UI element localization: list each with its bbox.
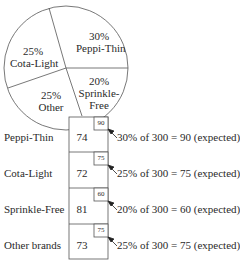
slice-name: Sprinkle-: [76, 87, 122, 99]
observed-value: 74: [69, 131, 95, 143]
observed-value: 73: [69, 239, 95, 251]
slice-percent: 30%: [76, 30, 122, 42]
pie-divider-left: [8, 68, 66, 88]
observed-value: 81: [69, 203, 95, 215]
row-label-other-brands: Other brands: [4, 239, 61, 251]
slice-name: Peppi-Thin: [76, 42, 122, 54]
slice-name-line2: Free: [76, 99, 122, 111]
expected-annotation: 25% of 300 = 75 (expected): [117, 239, 240, 251]
expected-annotation: 30% of 300 = 90 (expected): [117, 131, 240, 143]
expected-annotation: 25% of 300 = 75 (expected): [117, 167, 240, 179]
row-label-sprinkle-free: Sprinkle-Free: [4, 203, 64, 215]
pie-label-peppi-thin: 30% Peppi-Thin: [76, 30, 122, 54]
expected-value: 60: [94, 190, 108, 198]
observed-value: 72: [69, 167, 95, 179]
expected-value: 90: [94, 119, 108, 127]
slice-name: Cota-Light: [10, 57, 56, 69]
slice-percent: 25%: [33, 89, 69, 101]
slice-percent: 20%: [76, 75, 122, 87]
expected-value: 75: [94, 154, 108, 162]
pie-label-cota-light: 25% Cota-Light: [10, 45, 56, 69]
slice-name: Other: [33, 101, 69, 113]
pie-label-other: 25% Other: [33, 89, 69, 113]
pie-label-sprinkle-free: 20% Sprinkle- Free: [76, 75, 122, 111]
expected-annotation: 20% of 300 = 60 (expected): [117, 203, 240, 215]
arrow-icons: [108, 129, 117, 246]
slice-percent: 25%: [10, 45, 56, 57]
row-label-peppi-thin: Peppi-Thin: [4, 131, 54, 143]
expected-value: 75: [94, 226, 108, 234]
row-label-cota-light: Cota-Light: [4, 167, 52, 179]
